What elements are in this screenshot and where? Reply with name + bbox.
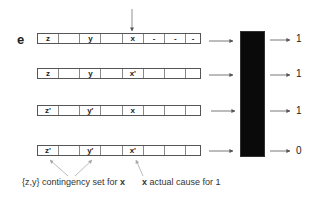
caption-text: {z,y} contingency set for [22, 177, 120, 187]
caption-var: x [120, 177, 125, 187]
caption-actual-cause: x actual cause for 1 [142, 177, 221, 187]
arrows-layer [0, 0, 318, 204]
caption-contingency-set: {z,y} contingency set for x [22, 177, 125, 187]
caption-text: actual cause for 1 [147, 177, 221, 187]
